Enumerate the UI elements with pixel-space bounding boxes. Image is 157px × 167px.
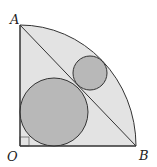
label-b: B: [138, 148, 149, 163]
geometry-diagram: A B O: [0, 0, 157, 167]
large-inscribed-circle: [20, 78, 88, 146]
label-a: A: [9, 12, 19, 27]
label-o: O: [7, 149, 18, 164]
